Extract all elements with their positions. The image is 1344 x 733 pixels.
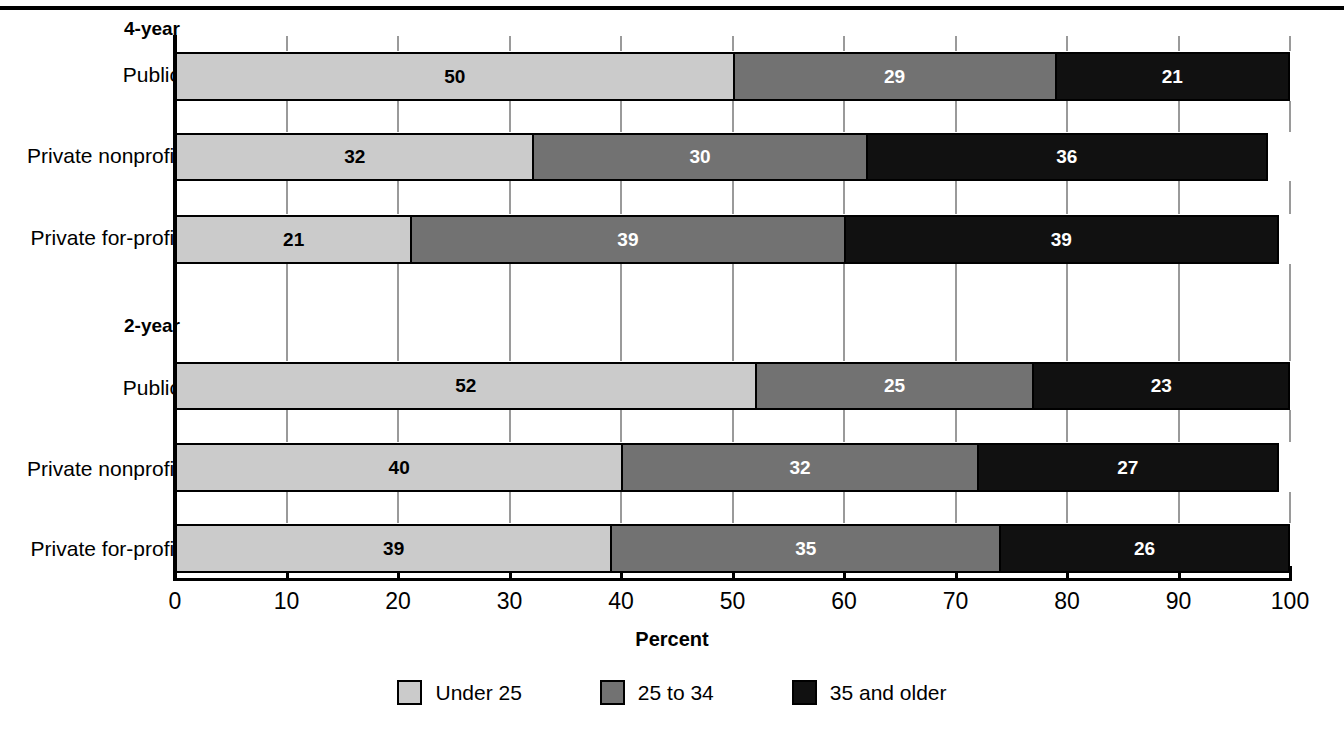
legend-item-under-25[interactable]: Under 25 [397,680,521,705]
stacked-bar-chart: 4-year 2-year Public Private nonprofit P… [0,0,1344,733]
gridline-tick [843,101,845,132]
gridline-tick [509,492,511,523]
bar-2year-public[interactable]: 52 25 23 [175,362,1290,410]
segment-under-25: 21 [177,217,410,262]
group-header-4-year: 4-year [124,18,180,40]
x-axis-tick-label: 50 [720,588,746,615]
gridline-tick [1289,36,1291,51]
gridline-tick [1178,492,1180,523]
x-axis-tick-label: 30 [497,588,523,615]
legend-item-25-to-34[interactable]: 25 to 34 [600,680,714,705]
gridline-tick [397,492,399,523]
segment-25-to-34: 29 [733,54,1055,99]
segment-25-to-34: 35 [610,526,999,571]
chart-legend: Under 25 25 to 34 35 and older [0,680,1344,705]
gridline-tick [1066,181,1068,214]
legend-swatch-icon [792,680,817,705]
gridline-tick [732,410,734,442]
category-label-4year-private-nonprofit: Private nonprofit [27,144,180,168]
group-header-2-year: 2-year [124,315,180,337]
y-axis-line [173,35,177,580]
bar-4year-private-nonprofit[interactable]: 32 30 36 [175,133,1268,181]
gridline-tick [1289,492,1291,523]
segment-35-and-older: 21 [1055,54,1288,99]
legend-swatch-icon [397,680,422,705]
gridline-tick [843,181,845,214]
legend-swatch-icon [600,680,625,705]
gridline-tick [955,410,957,442]
gridline-tick [1066,264,1068,361]
x-axis-tick-label: 60 [831,588,857,615]
gridline-tick [1066,492,1068,523]
x-axis-tick-label: 80 [1054,588,1080,615]
gridline-tick [955,101,957,132]
gridline-tick [1289,410,1291,442]
gridline-tick [620,410,622,442]
gridline-tick [620,101,622,132]
gridline-tick [1178,410,1180,442]
gridline-tick [1066,36,1068,51]
gridline-tick [1178,264,1180,361]
x-axis-tick-label: 90 [1166,588,1192,615]
segment-35-and-older: 39 [844,217,1277,262]
gridline-tick [509,36,511,51]
gridline-tick [620,264,622,361]
x-axis-tick-label: 40 [608,588,634,615]
segment-35-and-older: 36 [866,135,1266,179]
segment-under-25: 32 [177,135,532,179]
bar-2year-private-nonprofit[interactable]: 40 32 27 [175,443,1279,492]
gridline-tick [1178,181,1180,214]
gridline-tick [1289,101,1291,132]
legend-item-35-and-older[interactable]: 35 and older [792,680,947,705]
gridline-tick [843,410,845,442]
segment-35-and-older: 27 [977,445,1277,490]
gridline-tick [286,36,288,51]
gridline-tick [286,410,288,442]
x-axis-tick-label: 70 [943,588,969,615]
segment-under-25: 52 [177,364,755,408]
gridline-tick [955,181,957,214]
gridline-tick [286,101,288,132]
gridline-tick [843,492,845,523]
gridline-tick [286,264,288,361]
gridline-tick [397,410,399,442]
x-axis-title: Percent [0,628,1344,651]
category-label-4year-private-forprofit: Private for-profit [31,226,180,250]
gridline-tick [509,101,511,132]
segment-under-25: 40 [177,445,621,490]
x-axis-tick-label: 20 [385,588,411,615]
gridline-tick [1289,181,1291,214]
gridline-tick [955,36,957,51]
gridline-tick [620,36,622,51]
bar-4year-private-forprofit[interactable]: 21 39 39 [175,215,1279,264]
bar-4year-public[interactable]: 50 29 21 [175,52,1290,101]
gridline-tick [286,181,288,214]
gridline-tick [843,264,845,361]
gridline-tick [732,181,734,214]
gridline-tick [397,101,399,132]
gridline-tick [1066,101,1068,132]
category-label-2year-private-forprofit: Private for-profit [31,537,180,561]
legend-label: 35 and older [830,681,947,705]
category-label-2year-public: Public [123,376,180,400]
segment-25-to-34: 39 [410,217,843,262]
gridline-tick [286,492,288,523]
gridline-tick [397,264,399,361]
gridline-tick [732,101,734,132]
gridline-tick [509,264,511,361]
gridline-tick [397,181,399,214]
gridline-tick [955,492,957,523]
gridline-tick [1178,36,1180,51]
category-label-4year-public: Public [123,63,180,87]
gridline-tick [1178,101,1180,132]
gridline-tick [1066,410,1068,442]
category-label-2year-private-nonprofit: Private nonprofit [27,457,180,481]
segment-25-to-34: 30 [532,135,865,179]
gridline-tick [1289,264,1291,361]
gridline-tick [955,264,957,361]
segment-25-to-34: 25 [755,364,1033,408]
gridline-tick [620,492,622,523]
legend-label: Under 25 [435,681,521,705]
segment-under-25: 50 [177,54,733,99]
bar-2year-private-forprofit[interactable]: 39 35 26 [175,524,1290,573]
